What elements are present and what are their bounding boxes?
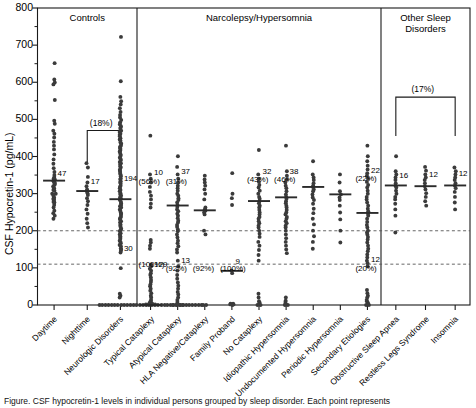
percent-label-typical-cataplexy: (56%) [139,177,160,186]
panel-header-other: Other Sleep Disorders [381,12,470,34]
count-label-neurologic-disorders: 194 [124,174,137,183]
percent-label-atypical-cataplexy: (31%) [166,177,187,186]
count-label-restless-legs-syndrome: 12 [429,170,438,179]
count-label-daytime: 47 [58,169,67,178]
y-axis-title: CSF Hypocretin-1 (pg/mL) [3,132,15,255]
x-axis-label-insomnia: Insomnia [429,314,460,345]
count-label-nighttime: 17 [91,177,100,186]
x-axis-label-nighttime: Nighttime [60,314,92,346]
count-label-atypical-cataplexy: 37 [181,167,190,176]
panel-header-narcolepsy: Narcolepsy/Hypersomnia [137,12,381,23]
panel-header-controls: Controls [38,12,138,23]
x-axis-label-daytime: Daytime [30,314,59,343]
bracket-label-other-bracket: (17%) [412,84,435,94]
bracket-label-controls-bracket: (18%) [90,118,113,128]
count-label-obstructive-sleep-apnea: 16 [399,171,408,180]
percent-label-secondary-etiologies: (20%) [355,264,376,273]
y-tick-label: 700 [0,38,33,50]
y-tick-label: 100 [0,261,33,273]
percent-label-typical-cataplexy: (100%) [139,260,165,269]
y-tick-label: 0 [0,298,33,310]
percent-label-family-proband: (100%) [220,264,246,273]
percent-label-atypical-cataplexy: (92%) [166,264,187,273]
y-tick-label: 500 [0,112,33,124]
figure-csf-hypocretin: 8007006005004003002001000CSF Hypocretin-… [0,0,476,408]
y-tick-label: 600 [0,75,33,87]
percent-label-idiopathic-hypersomnia: (46%) [274,175,295,184]
percent-label-hla-negative-cataplexy: (92%) [193,264,214,273]
count-label-typical-cataplexy: 10 [154,168,163,177]
figure-caption: Figure. CSF hypocretin-1 levels in indiv… [4,396,476,406]
count-label-neurologic-disorders: 30 [124,244,133,253]
y-tick-label: 800 [0,1,33,13]
percent-label-secondary-etiologies: (22%) [355,174,376,183]
percent-label-no-cataplexy: (43%) [247,175,268,184]
count-label-insomnia: 12 [459,169,468,178]
